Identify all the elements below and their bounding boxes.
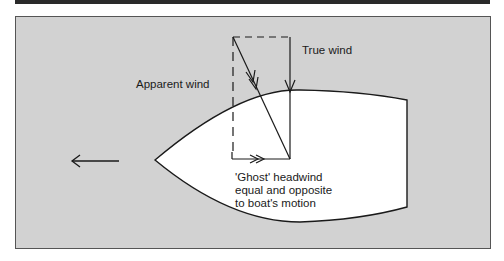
apparent-wind-label: Apparent wind xyxy=(136,78,210,91)
ghost-headwind-label-line1: 'Ghost' headwind xyxy=(235,171,323,184)
ghost-headwind-label-line2: equal and opposite xyxy=(235,184,332,197)
ghost-headwind-label-line3: to boat's motion xyxy=(235,197,316,210)
wind-vector-diagram xyxy=(0,0,504,261)
true-wind-label: True wind xyxy=(302,44,352,57)
